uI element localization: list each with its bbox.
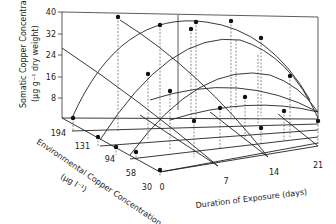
z-axis: 40 32 24 16 8 Somatic Copper Concentrati…: [19, 0, 62, 108]
x-tick-7: 7: [223, 177, 228, 186]
y-axis-title: Environmental Copper Concentration: [35, 137, 163, 224]
x-tick-14: 14: [269, 168, 279, 177]
z-tick-32: 32: [46, 30, 56, 39]
z-axis-units: (µg g⁻¹ dry weight): [31, 25, 40, 102]
y-tick-58: 58: [126, 169, 136, 178]
z-tick-40: 40: [46, 8, 56, 17]
z-tick-24: 24: [46, 51, 56, 60]
y-tick-131: 131: [75, 142, 90, 151]
y-tick-30: 30: [142, 183, 152, 192]
base-grid: [62, 112, 318, 172]
chart-figure: 40 32 24 16 8 Somatic Copper Concentrati…: [0, 0, 336, 224]
y-tick-194: 194: [51, 129, 66, 138]
y-tick-94: 94: [105, 155, 115, 164]
z-axis-title: Somatic Copper Concentration: [19, 0, 28, 108]
x-tick-21: 21: [313, 161, 323, 170]
z-tick-16: 16: [46, 73, 56, 82]
surface-curves: [62, 20, 318, 166]
x-axis-title: Duration of Exposure (days): [195, 187, 308, 210]
y-axis: 194 131 94 58 30 Environmental Copper Co…: [35, 129, 163, 224]
z-tick-8: 8: [51, 94, 56, 103]
x-tick-0: 0: [159, 183, 164, 192]
